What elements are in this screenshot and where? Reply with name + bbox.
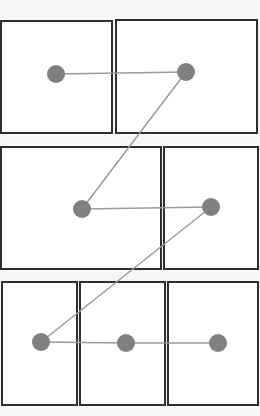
edge-node-5-node-6 [41,342,126,343]
node-3-dot [73,200,91,218]
zigzag-layout-diagram [0,0,260,416]
node-1-dot [47,65,65,83]
node-4-dot [202,198,220,216]
node-6-dot [117,334,135,352]
node-5-dot [32,333,50,351]
node-7-dot [209,334,227,352]
node-2-dot [177,63,195,81]
